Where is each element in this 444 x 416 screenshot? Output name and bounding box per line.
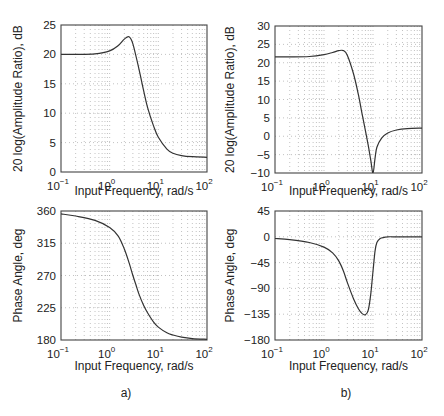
- svg-text:360: 360: [37, 205, 56, 217]
- svg-text:5: 5: [264, 112, 270, 124]
- svg-text:102: 102: [410, 345, 428, 360]
- y-tick-labels: −10−5051015202530: [250, 20, 270, 179]
- x-axis-label: Input Frequency, rad/s: [289, 184, 408, 198]
- svg-text:−135: −135: [244, 308, 270, 320]
- grid-lines: [61, 211, 207, 340]
- svg-text:101: 101: [147, 345, 165, 360]
- panel-a-phase-plot: 18022527031536010−1100101102Input Freque…: [11, 205, 213, 373]
- panel-b-phase-plot: −180−135−90−4504510−1100101102Input Freq…: [223, 205, 428, 373]
- svg-text:10−1: 10−1: [261, 345, 283, 360]
- x-axis-label: Input Frequency, rad/s: [74, 359, 193, 373]
- svg-text:100: 100: [98, 345, 116, 360]
- response-curve: [275, 237, 422, 315]
- y-axis-label: 20 log(Amplitude Ratio), dB: [11, 25, 25, 172]
- svg-text:25: 25: [43, 19, 56, 31]
- svg-text:0: 0: [264, 231, 270, 243]
- svg-text:20: 20: [43, 48, 56, 60]
- svg-text:0: 0: [50, 166, 56, 178]
- svg-text:−5: −5: [257, 149, 270, 161]
- x-tick-labels: 10−1100101102: [261, 345, 428, 360]
- response-curve: [61, 214, 207, 339]
- svg-text:102: 102: [195, 345, 213, 360]
- svg-text:25: 25: [257, 38, 270, 50]
- panel-b-magnitude-plot: −10−505101520253010−1100101102Input Freq…: [223, 20, 428, 198]
- svg-text:10−1: 10−1: [47, 177, 69, 192]
- svg-text:45: 45: [257, 205, 270, 217]
- svg-text:15: 15: [43, 78, 56, 90]
- y-axis-label: Phase Angle, deg: [11, 228, 25, 322]
- grid-lines: [275, 211, 422, 340]
- svg-text:180: 180: [37, 334, 56, 346]
- y-axis-label: Phase Angle, deg: [223, 228, 237, 322]
- x-axis-label: Input Frequency, rad/s: [74, 184, 193, 198]
- svg-text:225: 225: [37, 302, 56, 314]
- svg-text:10: 10: [257, 94, 270, 106]
- svg-text:10−1: 10−1: [47, 345, 69, 360]
- y-tick-labels: 0510152025: [43, 19, 56, 178]
- svg-text:10−1: 10−1: [261, 178, 283, 193]
- panel-a-caption: a): [121, 386, 132, 400]
- svg-text:15: 15: [257, 75, 270, 87]
- svg-text:−90: −90: [250, 282, 270, 294]
- svg-text:102: 102: [195, 177, 213, 192]
- y-tick-labels: 180225270315360: [37, 205, 56, 346]
- x-axis-label: Input Frequency, rad/s: [289, 359, 408, 373]
- plot-frame: [275, 211, 422, 340]
- svg-text:0: 0: [264, 130, 270, 142]
- grid-lines: [275, 26, 422, 173]
- svg-text:270: 270: [37, 270, 56, 282]
- y-axis-label: 20 log(Amplitude Ratio), dB: [223, 26, 237, 173]
- svg-text:−10: −10: [250, 167, 270, 179]
- svg-text:20: 20: [257, 57, 270, 69]
- svg-text:100: 100: [312, 345, 330, 360]
- svg-text:102: 102: [410, 178, 428, 193]
- svg-text:10: 10: [43, 107, 56, 119]
- svg-text:−45: −45: [250, 257, 270, 269]
- y-tick-labels: −180−135−90−45045: [244, 205, 270, 346]
- bode-plots-figure: 051015202510−1100101102Input Frequency, …: [0, 0, 444, 416]
- x-tick-labels: 10−1100101102: [47, 345, 213, 360]
- svg-text:−180: −180: [244, 334, 270, 346]
- svg-text:30: 30: [257, 20, 270, 32]
- svg-text:5: 5: [50, 137, 56, 149]
- panel-a-magnitude-plot: 051015202510−1100101102Input Frequency, …: [11, 19, 213, 198]
- panel-b-caption: b): [341, 386, 352, 400]
- svg-text:315: 315: [37, 237, 56, 249]
- svg-text:101: 101: [361, 345, 379, 360]
